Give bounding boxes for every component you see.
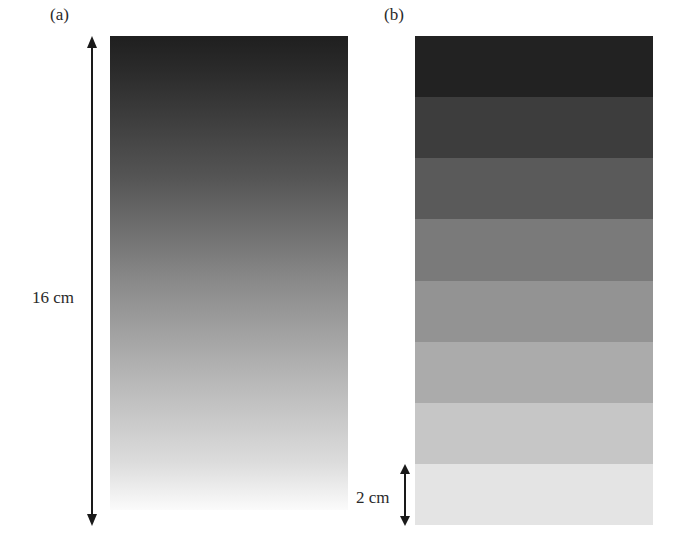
gray-band-8 <box>415 464 653 525</box>
gray-band-3 <box>415 158 653 219</box>
double-arrow-icon <box>397 464 413 526</box>
panel-a-label: (a) <box>50 6 69 23</box>
gray-band-6 <box>415 342 653 403</box>
continuous-gradient-panel <box>110 36 348 510</box>
gray-band-2 <box>415 97 653 158</box>
gray-band-4 <box>415 219 653 280</box>
double-arrow-icon <box>84 36 100 526</box>
panel-b-label: (b) <box>384 6 404 23</box>
gray-band-1 <box>415 36 653 97</box>
gray-band-7 <box>415 403 653 464</box>
band-height-label: 2 cm <box>356 488 390 508</box>
gray-band-5 <box>415 281 653 342</box>
stepped-gradient-panel <box>415 36 653 525</box>
total-height-label: 16 cm <box>32 288 74 308</box>
